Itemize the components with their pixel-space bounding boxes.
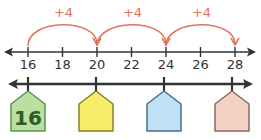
tick-label: 16 <box>20 57 37 72</box>
jump-arc <box>28 25 97 46</box>
tick-label: 20 <box>89 57 106 72</box>
jump-arcs: +4+4+4 <box>28 5 239 46</box>
tag-value: 16 <box>14 106 42 130</box>
top-number-line: 16182022242628 <box>4 47 256 72</box>
jump-arc <box>97 25 166 46</box>
jump-arc <box>166 25 235 46</box>
jump-label: +4 <box>54 5 73 20</box>
number-tag[interactable] <box>215 91 249 131</box>
bottom-number-line: 16 <box>8 77 253 131</box>
tick-label: 22 <box>123 57 140 72</box>
tick-label: 26 <box>192 57 209 72</box>
tick-label: 18 <box>54 57 71 72</box>
tick-label: 28 <box>227 57 244 72</box>
number-tag[interactable] <box>79 91 113 131</box>
jump-label: +4 <box>192 5 211 20</box>
tick-label: 24 <box>158 57 175 72</box>
number-line-diagram: 16182022242628 +4+4+4 16 <box>0 0 261 140</box>
number-tag[interactable] <box>147 91 181 131</box>
jump-label: +4 <box>123 5 142 20</box>
